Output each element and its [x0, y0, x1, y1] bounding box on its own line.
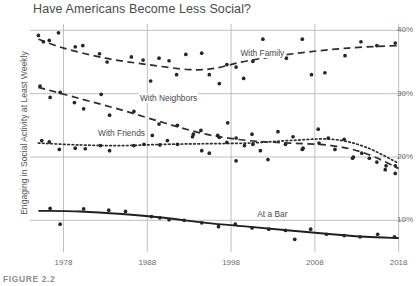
data-point [267, 227, 271, 231]
data-point [360, 151, 364, 155]
data-point [250, 132, 254, 136]
series-at-a-bar [38, 206, 398, 241]
data-point [98, 52, 102, 56]
data-point [358, 235, 362, 239]
data-point [217, 136, 221, 140]
data-point [83, 147, 87, 151]
data-point [108, 113, 112, 117]
data-point [276, 130, 280, 134]
y-tick-label: 30% [387, 89, 413, 98]
data-point [167, 218, 171, 222]
data-point [73, 101, 77, 105]
data-point [149, 79, 153, 83]
data-point [105, 60, 109, 64]
series-with-neighbors [38, 84, 398, 175]
data-point [359, 40, 363, 44]
data-point [261, 37, 265, 41]
data-point [82, 207, 86, 211]
data-point [48, 206, 52, 210]
data-point [191, 135, 195, 139]
series-label-with-friends: With Friends [97, 128, 146, 138]
data-point [99, 92, 103, 96]
data-point [141, 58, 145, 62]
data-point [343, 54, 347, 58]
data-point [367, 156, 371, 160]
figure-caption: FIGURE 2.2 [3, 274, 55, 284]
data-point [250, 226, 254, 230]
series-with-family [37, 31, 399, 85]
data-point [393, 172, 397, 176]
data-point [58, 91, 62, 95]
data-point [124, 210, 128, 214]
data-point [48, 96, 52, 100]
data-point [47, 140, 51, 144]
data-point [73, 45, 77, 49]
data-point [375, 160, 379, 164]
data-point [158, 143, 162, 147]
y-tick-label: 20% [387, 152, 413, 161]
data-point [225, 63, 229, 67]
data-point [150, 215, 154, 219]
data-point [393, 41, 397, 45]
data-point [200, 149, 204, 153]
data-point [199, 129, 203, 133]
data-point [226, 121, 230, 125]
series-label-with-neighbors: With Neighbors [139, 93, 198, 103]
data-point [325, 232, 329, 236]
data-point [323, 71, 327, 75]
data-point [142, 142, 146, 146]
data-point [342, 137, 346, 141]
data-point [130, 55, 134, 59]
data-point [291, 135, 295, 139]
data-point [42, 40, 46, 44]
data-point [167, 59, 171, 63]
y-tick-label: 40% [387, 25, 413, 34]
x-tick-label: 2018 [379, 258, 418, 267]
data-point [333, 148, 337, 152]
data-point [293, 237, 297, 241]
data-point [317, 141, 321, 145]
data-point [375, 44, 379, 48]
data-point [73, 146, 77, 150]
trend-line [38, 87, 398, 168]
data-point [284, 142, 288, 146]
series-label-with-family: With Family [239, 48, 285, 58]
data-point [217, 82, 221, 86]
data-point [150, 134, 154, 138]
data-point [300, 37, 304, 41]
x-tick-label: 2008 [295, 258, 335, 267]
data-point [107, 208, 111, 212]
data-point [225, 141, 229, 145]
data-point [132, 110, 136, 114]
x-tick-label: 1998 [211, 258, 251, 267]
data-point [38, 84, 42, 88]
data-point [393, 235, 397, 239]
data-point [310, 73, 314, 77]
data-point [184, 53, 188, 57]
data-point [132, 144, 136, 148]
data-point [40, 139, 44, 143]
data-point [316, 127, 320, 131]
data-point [217, 225, 221, 229]
data-point [176, 142, 180, 146]
data-point [200, 221, 204, 225]
data-point [182, 218, 186, 222]
data-point [300, 148, 304, 152]
data-point [175, 73, 179, 77]
data-point [81, 44, 85, 48]
trend-line [38, 139, 398, 163]
data-point [108, 149, 112, 153]
data-point [242, 77, 246, 81]
data-point [82, 107, 86, 111]
data-point [233, 222, 237, 226]
data-point [234, 136, 238, 140]
data-point [342, 234, 346, 238]
data-point [384, 164, 388, 168]
data-point [166, 139, 170, 143]
data-point [309, 227, 313, 231]
data-point [352, 155, 356, 159]
data-point [266, 158, 270, 162]
data-point [234, 159, 238, 163]
